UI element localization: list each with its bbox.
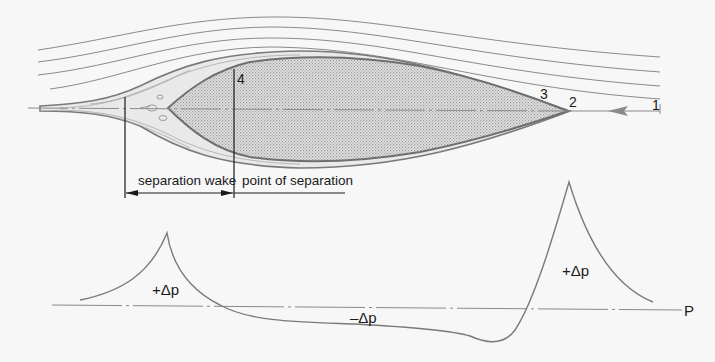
label-point-1: 1 <box>652 97 660 113</box>
point-of-separation-label: point of separation <box>242 173 353 188</box>
label-point-4: 4 <box>237 71 245 87</box>
label-point-2: 2 <box>569 94 577 110</box>
right-positive-pressure-label: +Δp <box>562 262 589 279</box>
label-point-3: 3 <box>540 86 548 102</box>
arrow-left-icon <box>126 190 138 196</box>
flow-diagram: 1 2 3 4 separation wake point of separat… <box>0 0 715 362</box>
arrow-right-icon <box>221 190 233 196</box>
pressure-axis-label: P <box>684 302 694 319</box>
separation-wake-label: separation wake <box>138 173 236 188</box>
left-positive-pressure-label: +Δp <box>152 281 179 298</box>
streamlined-body <box>168 57 568 161</box>
streamline-1 <box>38 17 660 57</box>
suction-pressure-label: –Δp <box>350 309 377 326</box>
